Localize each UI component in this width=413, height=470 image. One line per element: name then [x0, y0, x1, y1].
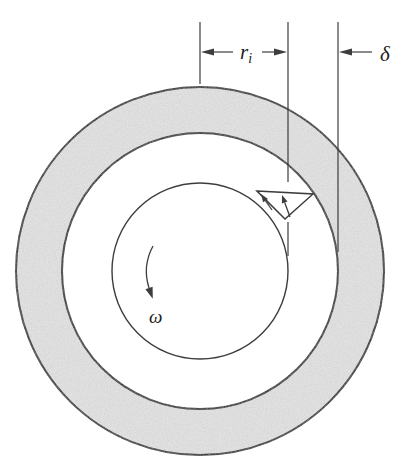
diagram-root: ri δ ω [16, 22, 391, 455]
arrow-left-icon [201, 49, 214, 56]
angular-velocity-label: ω [149, 306, 162, 327]
cylinder-gap-diagram: ri δ ω [0, 0, 413, 470]
gap-label: δ [380, 42, 391, 66]
arrow-left-icon [339, 49, 352, 56]
inner-cylinder [112, 183, 288, 359]
arrow-right-icon [274, 49, 287, 56]
gap-dimension [339, 49, 372, 56]
inner-radius-label: ri [240, 40, 252, 66]
